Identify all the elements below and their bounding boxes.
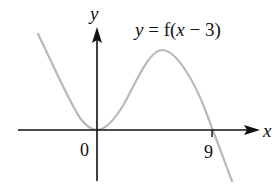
curve-label-lhs: y [133, 19, 144, 40]
tick-label-9: 9 [204, 142, 213, 162]
curve-label-eq: = [143, 19, 163, 40]
y-axis-label: y [88, 3, 99, 24]
curve-f-x-minus-3 [38, 34, 232, 181]
graph-figure: x y 0 9 y = f(x − 3) [0, 0, 280, 188]
origin-label: 0 [80, 140, 89, 160]
curve-label-rest: − 3) [185, 19, 221, 41]
curve-label-fn: f( [164, 19, 177, 41]
curve-label: y = f(x − 3) [133, 19, 221, 41]
x-axis-label: x [262, 120, 272, 141]
